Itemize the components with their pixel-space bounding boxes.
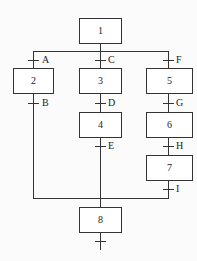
transition-label-B: B (42, 98, 49, 108)
transition-label-E: E (108, 141, 114, 151)
step-label-8: 8 (79, 215, 122, 225)
transition-label-C: C (108, 55, 115, 65)
transition-label-H: H (176, 141, 183, 151)
transition-label-F: F (176, 55, 182, 65)
step-label-5: 5 (146, 76, 193, 86)
step-label-7: 7 (146, 163, 193, 173)
step-label-6: 6 (146, 120, 193, 130)
step-label-3: 3 (79, 76, 122, 86)
step-label-4: 4 (79, 120, 122, 130)
step-label-2: 2 (13, 76, 54, 86)
step-label-1: 1 (79, 26, 122, 36)
transition-label-G: G (176, 98, 183, 108)
transition-label-I: I (176, 184, 179, 194)
transition-label-A: A (42, 55, 49, 65)
transition-label-D: D (108, 98, 115, 108)
